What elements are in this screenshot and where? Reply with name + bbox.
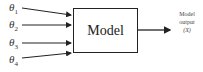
model-label: Model (87, 23, 124, 39)
model-output-label: Model output (X) (172, 10, 202, 34)
theta-1-label: θ1 (9, 2, 18, 16)
theta-4-label: θ4 (9, 54, 18, 68)
output-line1: Model (172, 10, 202, 18)
output-line3: (X) (172, 26, 202, 34)
theta-3-label: θ3 (9, 37, 18, 51)
arrow-theta1 (22, 8, 71, 15)
theta-2-label: θ2 (9, 19, 18, 33)
arrow-theta4 (22, 53, 71, 58)
output-line2: output (172, 18, 202, 26)
model-box: Model (73, 8, 138, 53)
